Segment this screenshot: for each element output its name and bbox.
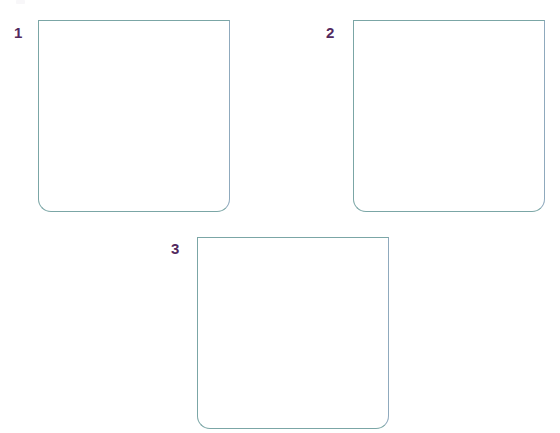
- box-label-1: 1: [14, 25, 23, 40]
- empty-box-2[interactable]: [353, 20, 545, 212]
- empty-box-1[interactable]: [38, 20, 230, 212]
- figure-canvas: 1 2 3: [0, 0, 560, 433]
- box-label-3: 3: [171, 241, 180, 256]
- empty-box-3[interactable]: [197, 237, 389, 429]
- box-label-2: 2: [326, 25, 335, 40]
- clipped-mark-artifact: [16, 0, 25, 4]
